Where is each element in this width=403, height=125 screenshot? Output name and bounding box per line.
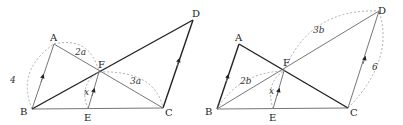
measure-ef: x bbox=[84, 87, 89, 97]
segment-bc bbox=[32, 108, 163, 109]
point-b-label: B bbox=[20, 106, 27, 117]
segment-ac bbox=[239, 44, 348, 108]
measure-ab: 4 bbox=[9, 75, 16, 85]
measure-fd: 3b bbox=[313, 25, 325, 35]
segment-cd bbox=[348, 11, 379, 108]
measure-fc: 3a bbox=[130, 76, 141, 86]
point-f-label: F bbox=[283, 57, 290, 68]
measure-ef: x bbox=[269, 86, 274, 96]
point-a-label: A bbox=[234, 32, 243, 43]
arc-cd bbox=[348, 11, 383, 108]
point-f-label: F bbox=[98, 59, 105, 70]
point-b-label: B bbox=[205, 106, 212, 117]
point-d-label: D bbox=[192, 8, 200, 19]
point-d-label: D bbox=[378, 5, 386, 16]
measure-af: 2a bbox=[74, 47, 86, 57]
diagram-canvas: 4 2a 3a x A B C D E F 2b 3b bbox=[0, 0, 403, 125]
measure-bf: 2b bbox=[239, 76, 252, 86]
point-a-label: A bbox=[49, 32, 58, 43]
segment-ac bbox=[54, 44, 163, 108]
measure-cd: 6 bbox=[372, 62, 378, 72]
figure-left: 4 2a 3a x A B C D E F bbox=[9, 8, 200, 123]
point-c-label: C bbox=[165, 107, 173, 118]
point-c-label: C bbox=[350, 107, 358, 118]
figure-right: 2b 3b 6 x A B C D E F bbox=[205, 5, 386, 123]
point-e-label: E bbox=[269, 112, 276, 123]
point-e-label: E bbox=[84, 112, 91, 123]
parallel-arrow-icon bbox=[41, 76, 43, 82]
segment-bc bbox=[217, 108, 348, 109]
segment-bd bbox=[217, 11, 379, 109]
segment-ef bbox=[273, 71, 284, 109]
